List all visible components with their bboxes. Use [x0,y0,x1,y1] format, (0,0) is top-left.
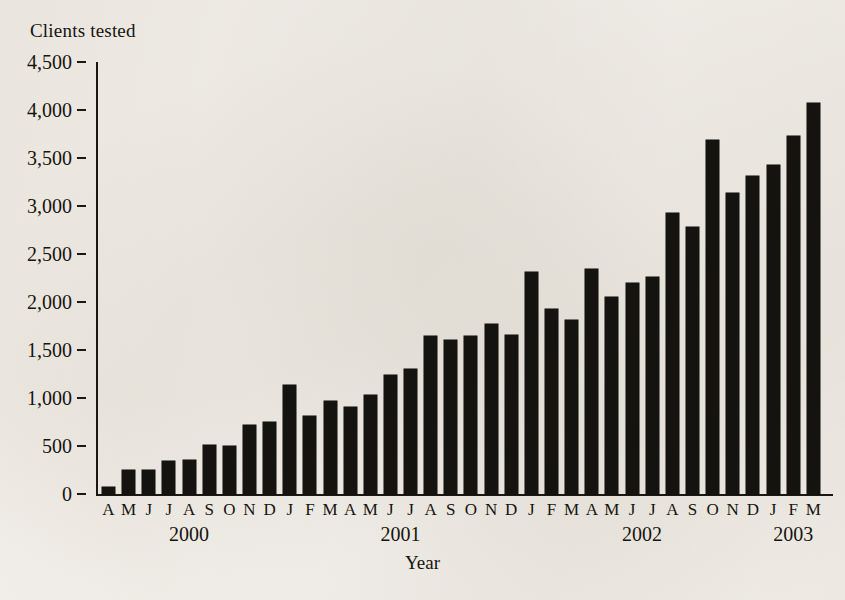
x-axis-month-label: M [320,500,340,520]
x-axis-month-labels: AMJJASONDJFMAMJJASONDJFMAMJJASONDJFM [96,500,833,524]
x-axis-month-label: A [421,500,441,520]
x-axis-year-label: 2001 [380,522,420,546]
x-axis-month-label: F [542,500,562,520]
bar [565,320,578,494]
x-axis-month-label: J [521,500,541,520]
y-axis-tick-label: 0 [62,484,72,504]
bar [525,272,538,494]
bar [706,140,719,494]
y-axis-tick-label: 1,000 [27,388,72,408]
bar [384,375,397,494]
x-axis-month-label: J [139,500,159,520]
bar [666,213,679,494]
bar [626,283,639,494]
x-axis-month-label: O [703,500,723,520]
y-axis-tick-label: 1,500 [27,340,72,360]
y-axis-tick [77,349,86,351]
x-axis-month-label: S [682,500,702,520]
x-axis-month-label: M [602,500,622,520]
y-axis-labels: 05001,0001,5002,0002,5003,0003,5004,0004… [0,62,86,495]
y-axis-tick [77,253,86,255]
bar [162,461,175,494]
y-axis-title: Clients tested [30,20,136,42]
y-axis-tick-label: 500 [42,436,72,456]
y-axis-tick [77,205,86,207]
bar-chart: Clients tested 05001,0001,5002,0002,5003… [0,0,845,600]
bar [646,277,659,494]
x-axis-month-label: O [219,500,239,520]
bar [686,227,699,494]
bar [505,335,518,494]
bar [746,176,759,494]
y-axis-tick-label: 2,000 [27,292,72,312]
bar [404,369,417,494]
x-axis-month-label: M [803,500,823,520]
x-axis-month-label: J [763,500,783,520]
x-axis-month-label: N [481,500,501,520]
x-axis-month-label: A [99,500,119,520]
plot-area [96,62,833,494]
x-axis-month-label: S [199,500,219,520]
bar-series [96,62,833,494]
x-axis-month-label: J [642,500,662,520]
y-axis-tick-label: 3,000 [27,196,72,216]
x-axis-year-label: 2003 [773,522,813,546]
bar [142,470,155,494]
bar [485,324,498,494]
bar [605,297,618,494]
x-axis-month-label: D [260,500,280,520]
bar [324,401,337,494]
x-axis-month-label: J [280,500,300,520]
y-axis-tick-label: 2,500 [27,244,72,264]
bar [263,422,276,494]
x-axis-month-label: A [179,500,199,520]
y-axis-tick-label: 3,500 [27,148,72,168]
bar [787,136,800,494]
x-axis-month-label: M [119,500,139,520]
x-axis-month-label: N [723,500,743,520]
y-axis-tick [77,61,86,63]
x-axis-month-label: J [380,500,400,520]
x-axis-month-label: O [461,500,481,520]
bar [424,336,437,494]
bar [303,416,316,494]
bar [183,460,196,494]
bar [102,487,115,494]
x-axis-month-label: J [159,500,179,520]
bar [203,445,216,494]
x-axis-month-label: F [300,500,320,520]
x-axis-month-label: S [441,500,461,520]
x-axis-month-label: M [360,500,380,520]
x-axis-month-label: D [501,500,521,520]
bar [464,336,477,494]
bar [243,425,256,494]
bar [807,103,820,494]
bar [444,340,457,494]
bar [364,395,377,494]
y-axis-tick [77,493,86,495]
x-axis-year-labels: 2000200120022003 [96,522,833,548]
y-axis-tick-label: 4,500 [27,52,72,72]
x-axis-month-label: M [562,500,582,520]
y-axis-tick [77,445,86,447]
x-axis-month-label: N [239,500,259,520]
bar [122,470,135,494]
x-axis-month-label: F [783,500,803,520]
x-axis-month-label: J [401,500,421,520]
x-axis-month-label: A [340,500,360,520]
bar [545,309,558,494]
y-axis-tick [77,157,86,159]
y-axis-tick-label: 4,000 [27,100,72,120]
y-axis-tick [77,301,86,303]
bar [283,385,296,494]
x-axis-month-label: D [743,500,763,520]
y-axis-tick [77,397,86,399]
y-axis-tick [77,109,86,111]
x-axis-month-label: A [582,500,602,520]
bar [767,165,780,494]
x-axis-year-label: 2002 [622,522,662,546]
bar [344,407,357,494]
x-axis-month-label: J [622,500,642,520]
x-axis-title: Year [0,552,845,574]
bar [585,269,598,494]
